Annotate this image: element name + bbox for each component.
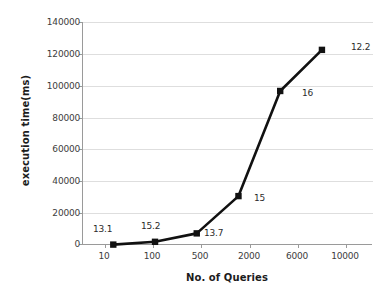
data-point-100 [152,239,158,245]
series-line [113,50,322,245]
data-series [0,0,386,294]
data-point-6000 [277,88,283,94]
data-point-10000 [319,47,325,53]
point-label-10000: 12.2 [351,42,370,52]
point-label-10: 13.1 [93,224,112,234]
point-label-6000: 16 [302,88,313,98]
data-point-500 [194,230,200,236]
point-label-500: 13.7 [204,228,223,238]
data-point-2000 [235,193,241,199]
point-label-2000: 15 [254,193,265,203]
data-point-10 [110,241,116,247]
point-label-100: 15.2 [141,221,160,231]
line-chart: 140000 120000 100000 80000 60000 40000 2… [0,0,386,294]
